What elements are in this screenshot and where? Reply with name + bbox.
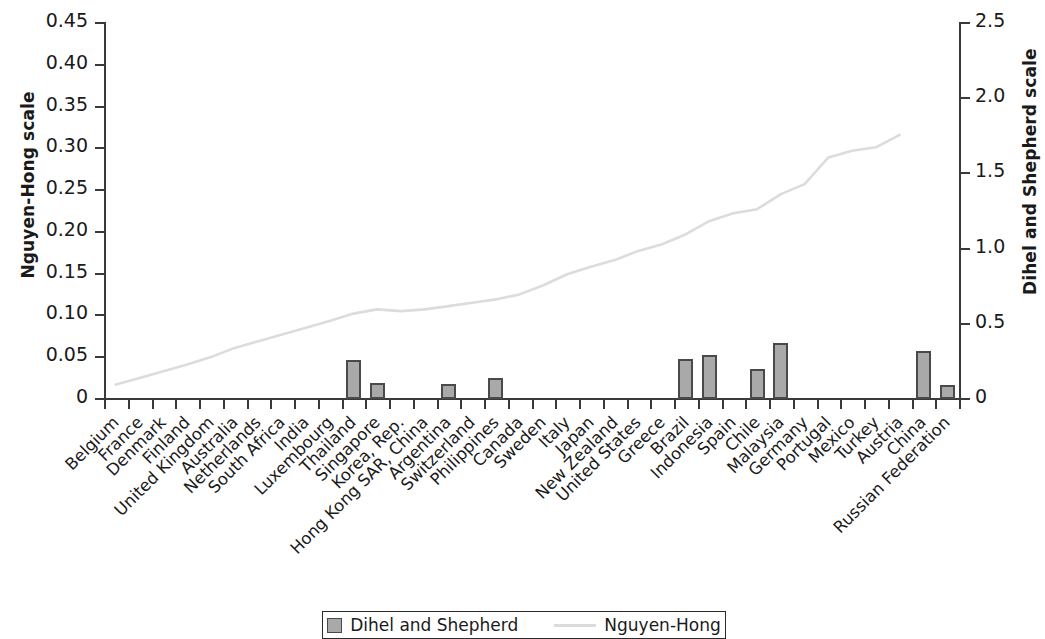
- legend-item-dihel-and-shepherd: Dihel and Shepherd: [327, 615, 518, 635]
- legend-line-swatch-icon: [554, 624, 596, 627]
- chart-legend: Dihel and Shepherd Nguyen-Hong: [322, 611, 726, 639]
- chart-canvas: Nguyen-Hong scale Dihel and Shepherd sca…: [0, 0, 1045, 639]
- legend-label-nguyen-hong: Nguyen-Hong: [604, 615, 720, 635]
- legend-label-dihel-and-shepherd: Dihel and Shepherd: [350, 615, 518, 635]
- legend-item-nguyen-hong: Nguyen-Hong: [554, 615, 720, 635]
- legend-square-swatch-icon: [327, 618, 342, 633]
